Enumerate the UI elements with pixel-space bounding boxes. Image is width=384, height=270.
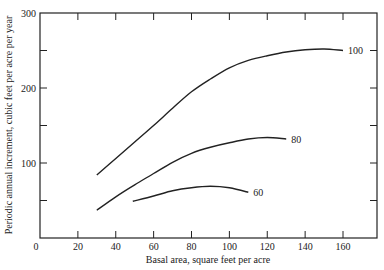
y-axis-label: Periodic annual increment, cubic feet pe… (3, 15, 14, 234)
line-chart: 020406080100120140160 100200300 1008060 … (0, 0, 384, 270)
plot-border (40, 13, 377, 238)
series-line-60 (133, 186, 249, 201)
series-lines: 1008060 (97, 45, 363, 210)
series-label-100: 100 (348, 45, 363, 56)
x-tick-label: 160 (336, 241, 351, 252)
plot-frame (40, 13, 377, 238)
series-label-80: 80 (291, 134, 301, 145)
x-tick-label: 40 (111, 241, 121, 252)
x-tick-label: 0 (34, 241, 39, 252)
x-axis-ticks: 020406080100120140160 (34, 13, 351, 252)
y-tick-label: 300 (21, 8, 36, 19)
x-tick-label: 100 (222, 241, 237, 252)
series-line-80 (97, 138, 286, 211)
series-line-100 (97, 49, 343, 175)
x-tick-label: 20 (73, 241, 83, 252)
y-axis-ticks: 100200300 (21, 8, 377, 201)
series-label-60: 60 (253, 187, 263, 198)
x-tick-label: 140 (298, 241, 313, 252)
y-tick-label: 100 (21, 158, 36, 169)
x-tick-label: 80 (187, 241, 197, 252)
y-tick-label: 200 (21, 83, 36, 94)
x-tick-label: 120 (260, 241, 275, 252)
x-tick-label: 60 (149, 241, 159, 252)
x-axis-label: Basal area, square feet per acre (146, 254, 271, 265)
